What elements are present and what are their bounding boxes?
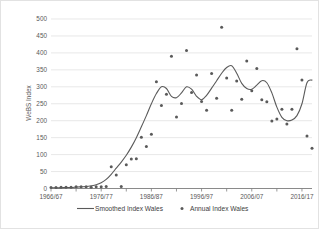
- y-tick-label: 350: [36, 66, 47, 73]
- annual-index-point: [195, 73, 198, 76]
- annual-index-point: [145, 145, 148, 148]
- annual-index-point: [80, 185, 83, 188]
- annual-index-point: [215, 97, 218, 100]
- series-annual-index-wales: [50, 26, 314, 189]
- annual-index-point: [180, 102, 183, 105]
- annual-index-point: [95, 185, 98, 188]
- legend-dot-marker: [181, 207, 184, 210]
- annual-index-point: [250, 89, 253, 92]
- annual-index-point: [290, 108, 293, 111]
- annual-index-point: [235, 80, 238, 83]
- annual-index-point: [280, 108, 283, 111]
- annual-index-point: [210, 72, 213, 75]
- annual-index-point: [270, 120, 273, 123]
- annual-index-point: [55, 186, 58, 189]
- annual-index-point: [245, 60, 248, 63]
- annual-index-point: [150, 133, 153, 136]
- annual-index-point: [60, 186, 63, 189]
- annual-index-point: [300, 79, 303, 82]
- annual-index-point: [135, 157, 138, 160]
- chart-legend: Smoothed Index Wales Annual Index Wales: [77, 205, 249, 212]
- annual-index-point: [130, 158, 133, 161]
- y-tick-label: 250: [36, 100, 47, 107]
- y-axis-title: WeBS Index: [25, 84, 32, 120]
- x-tick-label: 1966/67: [39, 193, 63, 200]
- legend-item-annual-index-wales: Annual Index Wales: [190, 205, 249, 212]
- annual-index-point: [265, 100, 268, 103]
- annual-index-point: [295, 47, 298, 50]
- annual-index-point: [110, 165, 113, 168]
- annual-index-point: [185, 49, 188, 52]
- annual-index-point: [140, 136, 143, 139]
- annual-index-point: [230, 109, 233, 112]
- annual-index-point: [220, 26, 223, 29]
- annual-index-point: [65, 186, 68, 189]
- y-tick-label: 100: [36, 151, 47, 158]
- annual-index-point: [70, 186, 73, 189]
- y-axis-tick-labels: 050100150200250300350400450500: [36, 15, 47, 192]
- annual-index-point: [105, 185, 108, 188]
- y-tick-label: 450: [36, 32, 47, 39]
- chart-figure: 050100150200250300350400450500 1966/6719…: [0, 0, 319, 229]
- annual-index-point: [260, 98, 263, 101]
- x-tick-label: 1996/97: [190, 193, 214, 200]
- y-tick-label: 400: [36, 49, 47, 56]
- y-tick-label: 150: [36, 134, 47, 141]
- annual-index-point: [115, 173, 118, 176]
- smoothed-index-line: [51, 65, 312, 187]
- y-tick-label: 50: [40, 168, 48, 175]
- x-tick-label: 2016/17: [290, 193, 314, 200]
- x-tick-label: 2006/07: [240, 193, 264, 200]
- annual-index-point: [275, 118, 278, 121]
- y-tick-label: 0: [43, 185, 47, 192]
- annual-index-point: [225, 76, 228, 79]
- annual-index-point: [175, 115, 178, 118]
- annual-index-point: [165, 93, 168, 96]
- annual-index-point: [240, 98, 243, 101]
- annual-index-point: [285, 123, 288, 126]
- annual-index-point: [311, 147, 314, 150]
- x-axis-tick-labels: 1966/671976/771986/871996/972006/072016/…: [39, 193, 314, 200]
- x-tick-label: 1986/87: [140, 193, 164, 200]
- annual-index-point: [200, 100, 203, 103]
- annual-index-point: [170, 55, 173, 58]
- annual-index-point: [155, 80, 158, 83]
- annual-index-point: [75, 185, 78, 188]
- chart-plot-area: 050100150200250300350400450500 1966/6719…: [1, 1, 319, 229]
- annual-index-point: [190, 91, 193, 94]
- y-tick-label: 500: [36, 15, 47, 22]
- annual-index-point: [255, 67, 258, 70]
- annual-index-point: [305, 134, 308, 137]
- annual-index-point: [120, 185, 123, 188]
- legend-item-smoothed-index-wales: Smoothed Index Wales: [95, 205, 164, 212]
- annual-index-point: [125, 163, 128, 166]
- x-tick-label: 1976/77: [90, 193, 114, 200]
- annual-index-point: [85, 185, 88, 188]
- annual-index-point: [100, 185, 103, 188]
- annual-index-point: [205, 109, 208, 112]
- annual-index-point: [50, 186, 53, 189]
- y-tick-label: 200: [36, 117, 47, 124]
- annual-index-point: [90, 186, 93, 189]
- annual-index-point: [160, 104, 163, 107]
- series-smoothed-index-wales: [51, 65, 312, 187]
- y-tick-label: 300: [36, 83, 47, 90]
